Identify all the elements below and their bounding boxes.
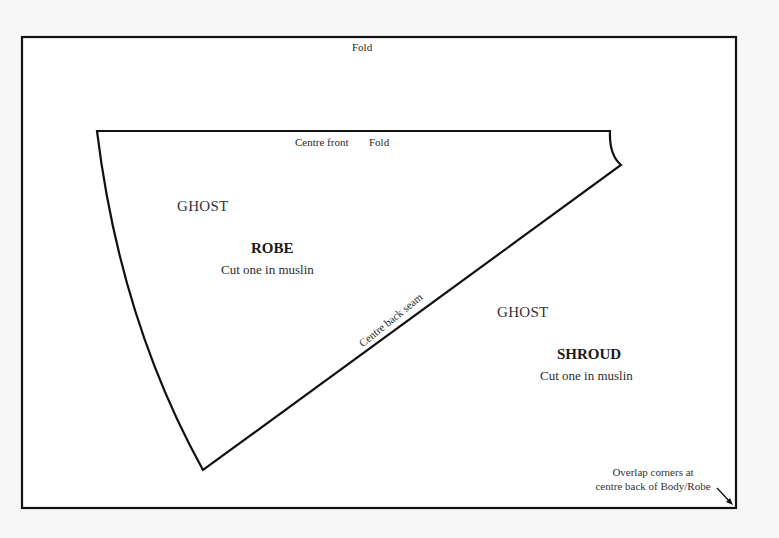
robe-outline	[97, 131, 621, 470]
overlap-note-line2: centre back of Body/Robe	[588, 479, 718, 493]
pattern-lines	[0, 0, 779, 538]
shroud-instruction: Cut one in muslin	[540, 369, 633, 382]
robe-fold-label: Fold	[369, 137, 389, 148]
overlap-arrow-icon	[717, 488, 733, 505]
shroud-title: SHROUD	[557, 347, 621, 362]
overlap-note-line1: Overlap corners at	[588, 465, 718, 479]
robe-title: ROBE	[251, 241, 294, 256]
robe-ghost-label: GHOST	[177, 199, 229, 214]
centre-front-label: Centre front	[295, 137, 348, 148]
overlap-note: Overlap corners at centre back of Body/R…	[588, 465, 718, 493]
shroud-outline	[22, 37, 736, 508]
shroud-ghost-label: GHOST	[497, 305, 549, 320]
robe-instruction: Cut one in muslin	[221, 263, 314, 276]
outer-fold-label: Fold	[352, 42, 372, 53]
